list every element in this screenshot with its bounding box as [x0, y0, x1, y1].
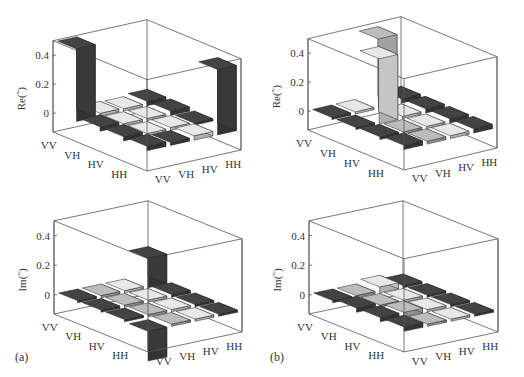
z-tick-label: 0.2 — [291, 259, 305, 271]
col-label: HV — [203, 345, 219, 357]
z-tick-label: 0.2 — [290, 76, 304, 88]
z-axis-label: Re(˜) — [15, 87, 28, 111]
col-label: VH — [179, 350, 195, 362]
col-label: HV — [459, 345, 475, 357]
z-tick-label: 0.4 — [35, 49, 49, 61]
row-label: HV — [88, 158, 104, 170]
col-label: VV — [412, 172, 428, 184]
plot-b-real: 00.20.4Re(˜)VVVHHVHHVVVHHVHH — [270, 17, 497, 185]
col-label: HH — [225, 158, 241, 170]
row-label: VH — [65, 330, 81, 342]
figure-canvas: 00.20.4Re(˜)VVVHHVHHVVVHHVHH 00.20.4Im(˜… — [0, 0, 524, 377]
row-label: VV — [42, 321, 58, 333]
z-axis-label: Re(˜) — [270, 85, 283, 109]
col-label: HV — [202, 163, 218, 175]
z-tick-label: 0.2 — [35, 78, 49, 90]
row-label: HV — [344, 157, 360, 169]
row-label: VH — [64, 149, 80, 161]
row-label: VV — [41, 139, 57, 151]
col-label: VV — [156, 355, 172, 367]
col-label: VH — [435, 350, 451, 362]
col-label: VH — [435, 167, 451, 179]
z-axis-label: Im(˜) — [16, 268, 29, 292]
z-tick-label: 0.2 — [36, 259, 50, 271]
z-tick-label: 0 — [299, 105, 305, 117]
z-tick-label: 0.4 — [290, 47, 304, 59]
col-label: HH — [226, 340, 242, 352]
z-tick-label: 0.4 — [291, 230, 305, 242]
col-label: VV — [412, 355, 428, 367]
col-label: HH — [482, 340, 498, 352]
col-label: VH — [178, 168, 194, 180]
row-label: VH — [320, 147, 336, 159]
panel-label-a: (a) — [15, 350, 28, 365]
z-tick-label: 0 — [45, 289, 51, 301]
plot-a-real: 00.20.4Re(˜)VVVHHVHHVVVHHVHH — [15, 20, 241, 186]
row-label: VV — [296, 137, 312, 149]
row-label: HH — [111, 168, 127, 180]
row-label: HV — [89, 340, 105, 352]
panel-label-b: (b) — [270, 350, 284, 365]
plot-b-imag: 00.20.4Im(˜)VVVHHVHHVVVHHVHH — [271, 201, 498, 367]
bar-VV-VV — [58, 37, 96, 122]
row-label: HH — [368, 167, 384, 179]
z-tick-label: 0 — [44, 107, 50, 119]
z-tick-label: 0.4 — [36, 230, 50, 242]
z-tick-label: 0 — [300, 289, 306, 301]
row-label: VH — [321, 330, 337, 342]
plot-a-imag: 00.20.4Im(˜)VVVHHVHHVVVHHVHH — [16, 201, 242, 367]
col-label: HV — [458, 161, 474, 173]
bar-HH-HH — [199, 58, 237, 135]
col-label: VV — [155, 173, 171, 185]
row-label: VV — [297, 321, 313, 333]
row-label: HH — [368, 349, 384, 361]
row-label: HH — [112, 349, 128, 361]
z-axis-label: Im(˜) — [271, 268, 284, 292]
row-label: HV — [344, 340, 360, 352]
col-label: HH — [481, 156, 497, 168]
bar-VH-VH — [360, 47, 398, 125]
